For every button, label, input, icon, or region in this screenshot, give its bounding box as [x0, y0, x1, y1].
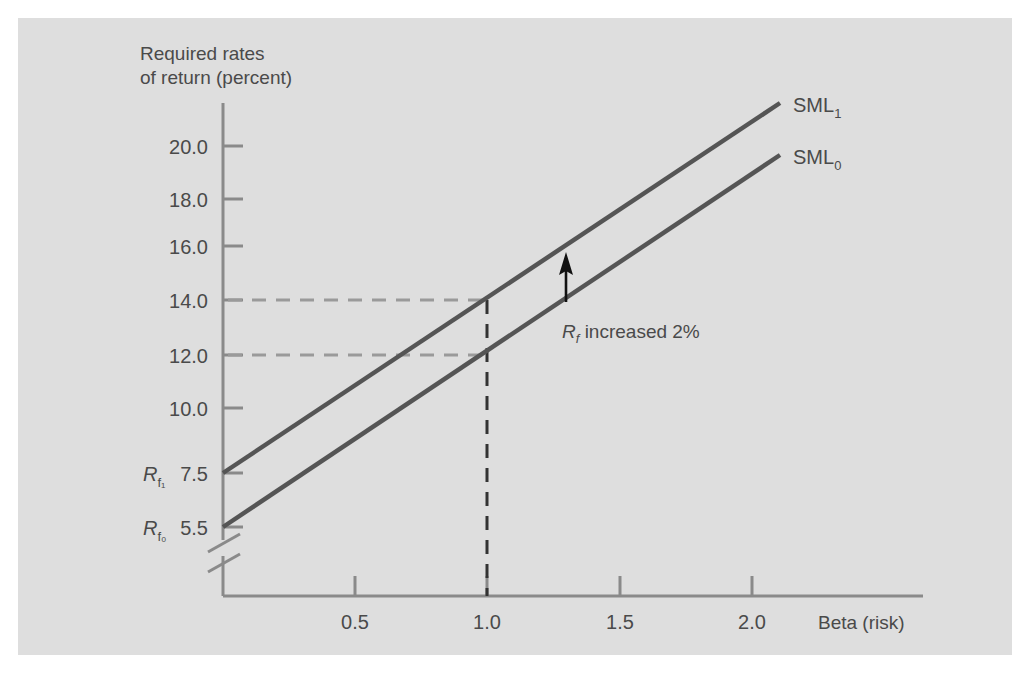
x-tick-label-2p0: 2.0 [738, 611, 766, 633]
rf1-subscript: f₁ [157, 475, 166, 490]
y-tick-label-10: 10.0 [169, 398, 208, 420]
y-tick-label-18: 18.0 [169, 189, 208, 211]
sml0-label-text: SML [793, 146, 834, 168]
sml1-label-subscript: 1 [834, 106, 841, 121]
y-axis-title-line1: Required rates [140, 43, 265, 64]
sml1-label: SML1 [793, 94, 841, 121]
sml0-label: SML0 [793, 146, 841, 173]
y-tick-label-5p5: 5.5 [180, 517, 208, 539]
x-tick-label-0p5: 0.5 [341, 611, 369, 633]
y-tick-label-14: 14.0 [169, 290, 208, 312]
y-axis-title-line2: of return (percent) [140, 67, 292, 88]
chart-svg: Required rates of return (percent) 20.0 … [0, 0, 1030, 681]
y-tick-label-7p5: 7.5 [180, 463, 208, 485]
y-tick-label-20: 20.0 [169, 136, 208, 158]
rf0-subscript: f₀ [157, 529, 166, 544]
figure-container: Required rates of return (percent) 20.0 … [0, 0, 1030, 681]
sml1-label-text: SML [793, 94, 834, 116]
annotation-symbol: R [562, 321, 576, 342]
x-tick-label-1p0: 1.0 [473, 611, 501, 633]
x-axis-title: Beta (risk) [818, 612, 905, 633]
x-tick-label-1p5: 1.5 [606, 611, 634, 633]
rf1-symbol: R [143, 463, 157, 485]
y-tick-label-16: 16.0 [169, 236, 208, 258]
annotation-rest: increased 2% [579, 321, 700, 342]
rf0-symbol: R [143, 517, 157, 539]
sml1-line [223, 103, 780, 473]
rf0-label: Rf₀ [143, 517, 166, 544]
sml0-label-subscript: 0 [834, 158, 841, 173]
rf1-label: Rf₁ [143, 463, 166, 490]
y-tick-label-12: 12.0 [169, 345, 208, 367]
rf-increase-annotation: Rf increased 2% [562, 321, 700, 346]
